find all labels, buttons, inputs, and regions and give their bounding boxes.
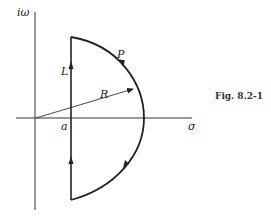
figure-caption: Fig. 8.2-1: [215, 91, 263, 101]
arc-p-label: P: [116, 48, 125, 61]
radius-r-label: R: [99, 88, 108, 101]
real-axis-label: σ: [188, 120, 196, 133]
offset-a-label: a: [61, 120, 68, 133]
imaginary-axis-label: iω: [17, 6, 30, 19]
contour-diagram: iω σ L P R a Fig. 8.2-1: [0, 0, 271, 220]
arrow-up-icon: [69, 156, 74, 164]
arrow-up-icon: [69, 61, 74, 69]
radius-r: [36, 89, 133, 118]
diagram-canvas: iω σ L P R a Fig. 8.2-1: [0, 0, 271, 220]
line-l-label: L: [60, 65, 68, 78]
